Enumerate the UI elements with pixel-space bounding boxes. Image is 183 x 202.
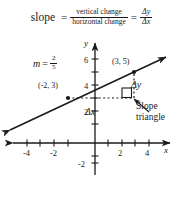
y-tick-label-6: 6	[84, 55, 88, 65]
x-tick-label--4: -4	[23, 148, 30, 158]
slope-equals: =	[40, 58, 50, 69]
slope-fraction-denominator: 5	[50, 63, 58, 72]
point-label-left: (-2, 3)	[38, 81, 58, 90]
slope-fraction: 2 5	[50, 55, 58, 72]
delta-y-label: Δy	[131, 79, 141, 90]
x-tick-label-4: 4	[145, 148, 149, 158]
slope-value-label: m = 2 5	[33, 55, 57, 72]
point-label-right: (3, 5)	[112, 57, 129, 66]
x-axis	[13, 140, 170, 147]
x-tick-label--2: -2	[50, 148, 57, 158]
slope-fraction-numerator: 2	[50, 55, 58, 63]
x-tick-label-2: 2	[118, 148, 122, 158]
slope-triangle-line1: Slope	[136, 101, 158, 111]
x-axis-label: x	[164, 145, 168, 155]
y-tick-label-2: 2	[84, 107, 88, 117]
slope-triangle-line2: triangle	[136, 112, 165, 122]
y-tick-label--2: -2	[78, 159, 85, 169]
y-axis-label: y	[84, 38, 88, 48]
point-marker-left	[66, 96, 70, 100]
point-marker-right	[132, 70, 136, 74]
y-tick-label-4: 4	[84, 81, 88, 91]
slope-triangle-annotation: Slope triangle	[136, 101, 165, 123]
slope-variable: m	[33, 58, 40, 69]
slope-figure: slope = vertical change horizontal chang…	[0, 0, 183, 202]
